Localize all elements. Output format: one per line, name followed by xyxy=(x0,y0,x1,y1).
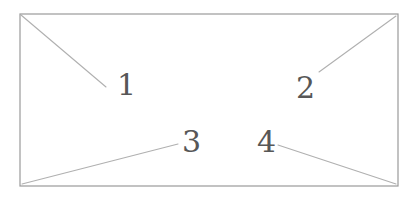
annotated-rectangle-diagram: 1 2 3 4 xyxy=(0,0,406,199)
leader-line-2 xyxy=(319,16,396,72)
callout-label-1: 1 xyxy=(117,67,136,102)
callout-label-3: 3 xyxy=(182,124,201,159)
leader-line-1 xyxy=(21,15,106,87)
callout-label-4: 4 xyxy=(257,124,276,159)
rectangle-outline xyxy=(20,14,398,186)
diagram-canvas: 1 2 3 4 xyxy=(0,0,406,199)
leader-line-4 xyxy=(278,145,396,184)
leader-line-3 xyxy=(22,144,178,184)
callout-label-2: 2 xyxy=(296,70,315,105)
